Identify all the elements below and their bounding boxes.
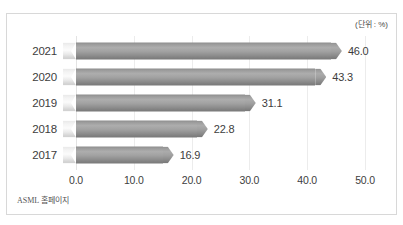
x-tick-label-20.0: 20.0 <box>182 174 202 186</box>
category-label-2017: 2017 <box>19 149 57 161</box>
bar-arrowhead <box>315 69 326 86</box>
unit-annotation-label: (단위 : %) <box>355 18 388 29</box>
bar-tail-chevron <box>63 43 76 60</box>
screenshot-root: (단위 : %) 202146.0202043.3201931.1201822.… <box>0 0 403 225</box>
bar-tail-chevron <box>63 147 76 164</box>
x-tick-label-0.0: 0.0 <box>69 174 83 186</box>
bar-body <box>76 95 245 112</box>
x-tick-label-10.0: 10.0 <box>124 174 144 186</box>
x-tick-label-50.0: 50.0 <box>355 174 375 186</box>
bar-arrowhead <box>331 43 342 60</box>
x-tick-label-30.0: 30.0 <box>240 174 260 186</box>
plot-area: 202146.0202043.3201931.1201822.8201716.9 <box>7 36 396 170</box>
data-label-2017: 16.9 <box>180 149 201 161</box>
bar-body <box>76 121 197 138</box>
bar-row: 201822.8 <box>7 116 396 142</box>
data-label-2019: 31.1 <box>262 97 283 109</box>
bar-tail-chevron <box>63 95 76 112</box>
bar-2020[interactable] <box>63 69 326 86</box>
data-label-2021: 46.0 <box>348 45 369 57</box>
bar-2017[interactable] <box>63 147 174 164</box>
bar-tail-chevron <box>63 121 76 138</box>
x-tick-label-40.0: 40.0 <box>297 174 317 186</box>
bar-arrowhead <box>245 95 256 112</box>
bar-row: 201931.1 <box>7 90 396 116</box>
category-label-2020: 2020 <box>19 71 57 83</box>
source-note: ASML 홈페이지 <box>17 194 69 205</box>
bar-rows-group: 202146.0202043.3201931.1201822.8201716.9 <box>7 36 396 170</box>
category-label-2021: 2021 <box>19 45 57 57</box>
bar-2021[interactable] <box>63 43 342 60</box>
bar-arrowhead <box>197 121 208 138</box>
data-label-2020: 43.3 <box>332 71 353 83</box>
bar-row: 202146.0 <box>7 38 396 64</box>
bar-row: 201716.9 <box>7 142 396 168</box>
bar-2019[interactable] <box>63 95 256 112</box>
bar-tail-chevron <box>63 69 76 86</box>
chart-frame: (단위 : %) 202146.0202043.3201931.1201822.… <box>6 13 397 215</box>
bar-row: 202043.3 <box>7 64 396 90</box>
bar-body <box>76 43 331 60</box>
category-label-2018: 2018 <box>19 123 57 135</box>
x-axis: 0.010.020.030.040.050.0 <box>7 174 396 190</box>
bar-body <box>76 69 315 86</box>
category-label-2019: 2019 <box>19 97 57 109</box>
bar-arrowhead <box>163 147 174 164</box>
bar-2018[interactable] <box>63 121 208 138</box>
bar-body <box>76 147 163 164</box>
page-top-sliver <box>0 0 403 12</box>
data-label-2018: 22.8 <box>214 123 235 135</box>
